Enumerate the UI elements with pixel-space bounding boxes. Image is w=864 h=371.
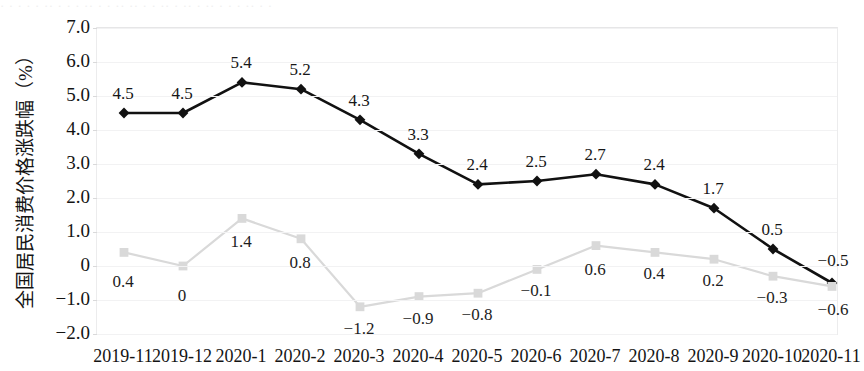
data-label: 5.4	[230, 54, 251, 71]
data-label: 2.4	[466, 156, 487, 173]
data-point-marker	[769, 272, 778, 281]
data-point-marker	[238, 214, 247, 223]
data-point-marker	[532, 176, 543, 187]
y-tick-mark	[93, 62, 97, 63]
data-point-marker	[237, 77, 248, 88]
y-tick-mark	[93, 232, 97, 233]
y-tick-label: 5.0	[38, 85, 90, 104]
x-tick-label: 2020-7	[570, 345, 621, 367]
gridline	[97, 300, 837, 301]
data-point-marker	[474, 289, 483, 298]
data-label: 1.4	[230, 233, 251, 250]
y-tick-mark	[93, 198, 97, 199]
data-point-marker	[828, 282, 837, 291]
x-tick-label: 2020-10	[742, 345, 802, 367]
y-tick-mark	[93, 130, 97, 131]
gridline	[97, 28, 837, 29]
y-tick-label: 2.0	[38, 187, 90, 206]
y-tick-label: 1.0	[38, 221, 90, 240]
y-tick-mark	[93, 300, 97, 301]
y-axis-tick-labels: 7.06.05.04.03.02.01.00−1.0−2.0	[30, 0, 90, 371]
x-tick-label: 2020-4	[393, 345, 444, 367]
x-tick-label: 2020-3	[334, 345, 385, 367]
gridline	[97, 198, 837, 199]
data-label: −0.5	[818, 252, 849, 269]
plot-area	[96, 27, 838, 335]
data-label: 2.4	[643, 156, 664, 173]
data-label: 4.5	[171, 85, 192, 102]
y-tick-label: −1.0	[38, 289, 90, 308]
data-label: 0	[178, 287, 187, 304]
data-point-marker	[414, 148, 425, 159]
gridline	[97, 266, 837, 267]
gridline	[97, 334, 837, 335]
x-tick-label: 2019-11	[93, 345, 152, 367]
y-tick-label: −2.0	[38, 323, 90, 342]
data-label: 0.4	[112, 273, 133, 290]
data-label: 4.3	[348, 92, 369, 109]
y-tick-label: 7.0	[38, 17, 90, 36]
data-label: 5.2	[289, 61, 310, 78]
data-label: 0.2	[702, 272, 723, 289]
data-point-marker	[119, 108, 130, 119]
gridline	[97, 130, 837, 131]
x-tick-label: 2020-9	[688, 345, 739, 367]
y-tick-mark	[93, 96, 97, 97]
x-tick-label: 2020-1	[216, 345, 267, 367]
data-label: 0.5	[761, 221, 782, 238]
data-label: 2.7	[584, 146, 605, 163]
data-label: 0.6	[584, 261, 605, 278]
data-point-marker	[356, 302, 365, 311]
data-point-marker	[178, 108, 189, 119]
data-point-marker	[296, 84, 307, 95]
data-point-marker	[355, 114, 366, 125]
data-point-marker	[120, 248, 129, 257]
data-label: 3.3	[407, 126, 428, 143]
data-label: −0.6	[818, 301, 849, 318]
data-point-marker	[651, 248, 660, 257]
x-tick-label: 2020-6	[511, 345, 562, 367]
data-point-marker	[473, 179, 484, 190]
x-tick-label: 2020-11	[801, 345, 860, 367]
y-tick-label: 0	[38, 255, 90, 274]
series-layer	[97, 28, 837, 334]
gridline	[97, 96, 837, 97]
x-tick-label: 2020-5	[452, 345, 503, 367]
gridline	[97, 62, 837, 63]
data-label: 0.8	[289, 254, 310, 271]
data-label: −0.8	[462, 306, 493, 323]
y-tick-label: 4.0	[38, 119, 90, 138]
gridline	[97, 232, 837, 233]
top-cropped-text: · · · · · ·· · · · ·· · · ·· ·· · · ·· ·…	[0, 0, 864, 11]
x-axis-tick-labels: 2019-112019-122020-12020-22020-32020-420…	[96, 345, 838, 371]
y-tick-mark	[93, 334, 97, 335]
x-tick-label: 2020-2	[275, 345, 326, 367]
data-point-marker	[710, 255, 719, 264]
y-tick-mark	[93, 28, 97, 29]
data-label: 0.4	[643, 265, 664, 282]
data-point-marker	[650, 179, 661, 190]
data-point-marker	[592, 241, 601, 250]
chart-figure: · · · · · ·· · · · ·· · · ·· ·· · · ·· ·…	[0, 0, 864, 371]
data-label: 4.5	[112, 85, 133, 102]
x-tick-label: 2020-8	[629, 345, 680, 367]
data-label: 1.7	[702, 180, 723, 197]
data-label: 2.5	[525, 153, 546, 170]
data-point-marker	[297, 234, 306, 243]
y-tick-label: 3.0	[38, 153, 90, 172]
y-tick-label: 6.0	[38, 51, 90, 70]
data-point-marker	[591, 169, 602, 180]
data-label: −0.3	[757, 289, 788, 306]
y-tick-mark	[93, 164, 97, 165]
data-label: −1.2	[344, 320, 375, 337]
x-tick-label: 2019-12	[152, 345, 212, 367]
y-tick-mark	[93, 266, 97, 267]
data-label: −0.1	[521, 282, 552, 299]
data-label: −0.9	[403, 310, 434, 327]
